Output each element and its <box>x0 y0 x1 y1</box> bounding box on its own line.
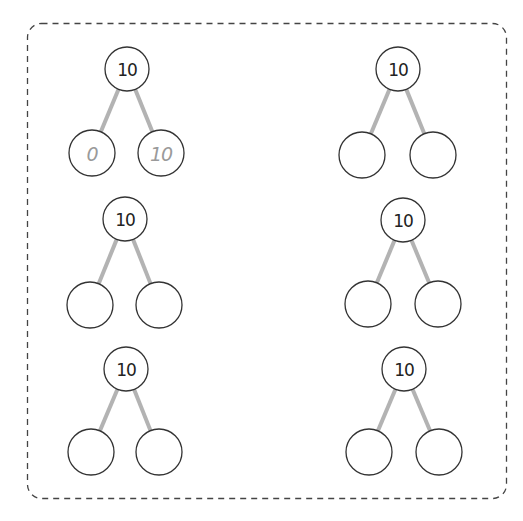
connector-line-right <box>406 89 424 133</box>
connector-line-right <box>133 239 150 283</box>
part-circle-left[interactable] <box>345 281 391 327</box>
number-bond-worksheet: 100101010101010 <box>0 0 523 521</box>
connector-line-right <box>135 89 152 131</box>
connector-line-left <box>377 240 395 282</box>
number-bond: 10 <box>339 47 456 178</box>
part-circle-right[interactable] <box>136 429 182 475</box>
whole-value: 10 <box>388 60 408 80</box>
number-bond: 10 <box>346 347 462 475</box>
part-circle-right[interactable] <box>136 282 182 328</box>
part-circle-left[interactable] <box>67 282 113 328</box>
connector-line-left <box>378 389 396 431</box>
part-circle-left[interactable] <box>346 429 392 475</box>
part-value-right: 10 <box>150 143 173 165</box>
number-bond: 10 <box>68 347 182 475</box>
connector-line-right <box>134 389 150 430</box>
number-bond: 10 <box>345 198 461 327</box>
part-value-left: 0 <box>86 143 98 165</box>
connector-line-left <box>100 389 118 431</box>
part-circle-right[interactable] <box>415 281 461 327</box>
number-bond: 10010 <box>69 47 184 176</box>
whole-value: 10 <box>117 60 137 80</box>
whole-value: 10 <box>393 211 413 231</box>
part-circle-right[interactable] <box>410 132 456 178</box>
whole-value: 10 <box>116 360 136 380</box>
connector-line-left <box>99 239 117 283</box>
connector-line-right <box>411 240 429 282</box>
part-circle-right[interactable] <box>416 429 462 475</box>
number-bond: 10 <box>67 197 182 328</box>
part-circle-left[interactable] <box>68 429 114 475</box>
whole-value: 10 <box>115 210 135 230</box>
connector-line-right <box>413 389 431 431</box>
connector-line-left <box>371 89 390 133</box>
connector-line-left <box>101 89 119 131</box>
part-circle-left[interactable] <box>339 132 385 178</box>
whole-value: 10 <box>394 360 414 380</box>
